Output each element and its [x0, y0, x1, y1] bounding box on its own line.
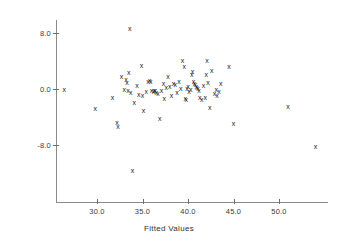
data-point-marker: x [153, 87, 157, 94]
data-point-marker: x [208, 103, 212, 110]
data-point-marker: x [162, 80, 166, 87]
data-point-marker: x [174, 81, 178, 88]
data-point-marker: x [219, 79, 223, 86]
data-point-marker: x [184, 95, 188, 102]
data-point-marker: x [194, 83, 198, 90]
data-point-marker: x [62, 86, 66, 93]
data-point-marker: x [164, 83, 168, 90]
data-point-marker: x [146, 77, 150, 84]
data-point-marker: x [204, 71, 208, 78]
data-point-marker: x [124, 76, 128, 83]
data-point-marker: x [133, 99, 137, 106]
data-point-marker: x [148, 76, 152, 83]
y-tick-label: 0.0 [40, 85, 51, 94]
data-point-marker: x [116, 123, 120, 130]
x-tick-label: 50.0 [271, 207, 286, 216]
data-point-marker: x [141, 91, 145, 98]
data-point-marker: x [217, 88, 221, 95]
data-point-marker: x [286, 102, 290, 109]
data-point-marker: x [232, 120, 236, 127]
x-tick-50.0 [279, 199, 280, 204]
data-point-marker: x [172, 79, 176, 86]
data-point-marker: x [197, 87, 201, 94]
data-point-marker: x [93, 104, 97, 111]
data-point-marker: x [191, 67, 195, 74]
data-point-marker: x [131, 167, 135, 174]
data-point-marker: x [193, 79, 197, 86]
data-point-marker: x [181, 56, 185, 63]
data-point-marker: x [123, 86, 127, 93]
data-point-marker: x [200, 95, 204, 102]
x-tick-40.0 [188, 199, 189, 204]
y-tick-8.0 [53, 33, 59, 34]
y-tick-label: -8.0 [37, 141, 51, 150]
data-point-marker: x [125, 79, 129, 86]
data-point-marker: x [192, 77, 196, 84]
data-point-marker: x [204, 94, 208, 101]
data-point-marker: x [206, 79, 210, 86]
data-point-marker: x [314, 143, 318, 150]
data-point-marker: x [202, 81, 206, 88]
data-point-marker: x [185, 85, 189, 92]
data-point-marker: x [215, 92, 219, 99]
data-point-marker: x [170, 92, 174, 99]
data-point-marker: x [158, 114, 162, 121]
data-point-marker: x [196, 85, 200, 92]
y-tick-0.0 [53, 89, 59, 90]
data-point-marker: x [227, 62, 231, 69]
scatter-plot-figure: 30.035.040.045.050.0 8.00.0-8.0 xxxxxxxx… [0, 0, 338, 245]
data-point-marker: x [126, 86, 130, 93]
x-tick-35.0 [143, 199, 144, 204]
data-point-marker: x [160, 86, 164, 93]
data-point-marker: x [144, 88, 148, 95]
data-point-marker: x [198, 94, 202, 101]
data-point-marker: x [163, 95, 167, 102]
x-tick-label: 40.0 [180, 207, 195, 216]
data-point-marker: x [213, 89, 217, 96]
data-point-marker: x [183, 62, 187, 69]
data-point-marker: x [210, 67, 214, 74]
data-point-marker: x [177, 78, 181, 85]
data-point-marker: x [175, 88, 179, 95]
data-point-marker: x [137, 90, 141, 97]
data-point-marker: x [127, 69, 131, 76]
data-point-marker: x [149, 78, 153, 85]
y-tick-label: 8.0 [40, 29, 51, 38]
y-tick--8.0 [53, 145, 59, 146]
data-point-marker: x [168, 83, 172, 90]
x-tick-label: 45.0 [226, 207, 241, 216]
data-point-marker: x [120, 72, 124, 79]
data-point-marker: x [152, 88, 156, 95]
data-point-marker: x [194, 81, 198, 88]
data-point-marker: x [140, 62, 144, 69]
data-point-marker: x [184, 95, 188, 102]
data-point-marker: x [195, 83, 199, 90]
data-point-marker: x [214, 86, 218, 93]
data-point-marker: x [154, 88, 158, 95]
x-axis-title: Fitted Values [0, 224, 338, 233]
data-point-marker: x [153, 86, 157, 93]
data-point-marker: x [189, 86, 193, 93]
x-tick-30.0 [97, 199, 98, 204]
data-point-marker: x [166, 73, 170, 80]
data-point-marker: x [179, 84, 183, 91]
data-point-marker: x [190, 70, 194, 77]
data-point-marker: x [111, 93, 115, 100]
data-point-marker: x [128, 25, 132, 32]
data-point-marker: x [115, 118, 119, 125]
data-point-marker: x [129, 88, 133, 95]
y-axis-line [56, 20, 57, 202]
data-point-marker: x [187, 88, 191, 95]
data-point-marker: x [186, 82, 190, 89]
x-tick-label: 30.0 [89, 207, 104, 216]
data-point-marker: x [205, 57, 209, 64]
x-tick-45.0 [234, 199, 235, 204]
x-tick-label: 35.0 [135, 207, 150, 216]
data-point-marker: x [142, 107, 146, 114]
data-point-marker: x [135, 81, 139, 88]
data-point-marker: x [150, 87, 154, 94]
data-point-marker: x [156, 90, 160, 97]
